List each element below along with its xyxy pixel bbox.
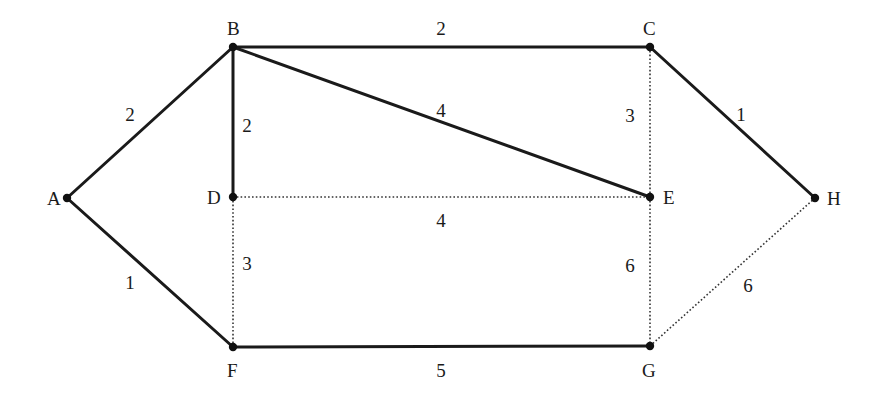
edge-a-b xyxy=(67,47,233,198)
weighted-graph-diagram: 212241534366 ABCDEFGH xyxy=(0,0,878,408)
edge-weight-b-c: 2 xyxy=(436,18,446,39)
node-b xyxy=(229,43,237,51)
edge-weight-b-e: 4 xyxy=(436,100,446,121)
edge-weight-a-f: 1 xyxy=(125,272,135,293)
edge-weight-d-e: 4 xyxy=(436,210,446,231)
node-label-e: E xyxy=(663,187,675,208)
node-label-a: A xyxy=(47,188,61,209)
edge-weight-b-d: 2 xyxy=(242,115,252,136)
node-a xyxy=(63,194,71,202)
edge-f-g xyxy=(233,346,650,347)
edges-layer xyxy=(67,47,815,347)
edge-weight-c-h: 1 xyxy=(736,104,746,125)
edge-g-h xyxy=(650,198,815,346)
edge-weight-f-g: 5 xyxy=(436,360,446,381)
node-label-h: H xyxy=(827,188,841,209)
edge-c-h xyxy=(650,47,815,198)
edge-weight-g-h: 6 xyxy=(743,275,753,296)
edge-weight-e-g: 6 xyxy=(625,255,635,276)
node-e xyxy=(646,193,654,201)
node-label-c: C xyxy=(643,18,656,39)
node-label-f: F xyxy=(227,360,238,381)
edge-weight-a-b: 2 xyxy=(125,104,135,125)
node-label-d: D xyxy=(207,187,221,208)
edge-weight-d-f: 3 xyxy=(242,253,252,274)
node-label-b: B xyxy=(227,18,240,39)
edge-weight-c-e: 3 xyxy=(625,105,635,126)
node-label-g: G xyxy=(642,360,656,381)
node-g xyxy=(646,342,654,350)
node-c xyxy=(646,43,654,51)
node-f xyxy=(229,343,237,351)
node-h xyxy=(811,194,819,202)
nodes-layer: ABCDEFGH xyxy=(47,18,841,381)
node-d xyxy=(229,193,237,201)
edge-b-e xyxy=(233,47,650,197)
edge-a-f xyxy=(67,198,233,347)
